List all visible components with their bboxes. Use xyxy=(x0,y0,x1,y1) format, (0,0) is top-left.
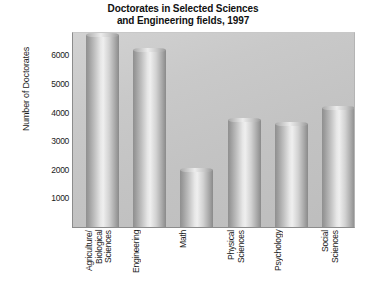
y-tick-label: 4000 xyxy=(35,108,69,118)
x-tick-label: Engineering xyxy=(132,230,165,299)
x-tick-label: Social Sciences xyxy=(321,230,354,299)
bar xyxy=(275,124,308,227)
y-tick-label: 6000 xyxy=(35,50,69,60)
bar xyxy=(133,50,166,227)
bar-top-cap xyxy=(275,122,308,126)
bar xyxy=(180,170,213,227)
bar-chart: Doctorates in Selected Sciences and Engi… xyxy=(0,0,366,299)
bar-top-cap xyxy=(180,168,213,172)
bar xyxy=(86,35,119,227)
x-tick-label: Math xyxy=(179,230,212,299)
bar xyxy=(322,108,355,227)
x-axis-labels: Agriculture/ Biological SciencesEngineer… xyxy=(72,230,355,299)
y-axis-ticks: 100020003000400050006000 xyxy=(33,0,69,299)
y-tick-label: 1000 xyxy=(35,193,69,203)
y-tick-label: 3000 xyxy=(35,136,69,146)
x-tick-label: Agriculture/ Biological Sciences xyxy=(85,230,118,299)
x-tick-label: Physical Sciences xyxy=(227,230,260,299)
bars-container xyxy=(73,33,354,227)
x-tick-label: Psychology xyxy=(274,230,307,299)
bar xyxy=(228,120,261,227)
bar-top-cap xyxy=(86,33,119,37)
y-tick-label: 5000 xyxy=(35,79,69,89)
y-tick-label: 2000 xyxy=(35,165,69,175)
bar-top-cap xyxy=(322,106,355,110)
plot-area xyxy=(72,32,355,228)
bar-top-cap xyxy=(228,118,261,122)
bar-top-cap xyxy=(133,48,166,52)
y-axis-title: Number of Doctorates xyxy=(21,14,31,164)
